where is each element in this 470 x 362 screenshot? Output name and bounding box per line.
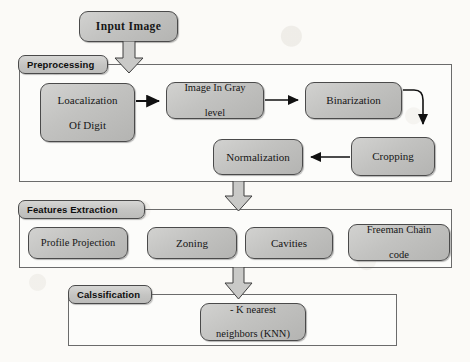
node-profile-projection-label: Profile Projection (38, 237, 118, 249)
node-localization-of-digit-label: Loacalization Of Digit (52, 94, 124, 132)
block-arrow-preprocessing-to-features (224, 181, 253, 212)
node-freeman-chain-code[interactable]: Freeman Chain code (348, 224, 450, 261)
section-tab-features-extraction-label: Features Extraction (27, 204, 118, 215)
node-gray-line1: Image In Gray (181, 82, 248, 94)
node-cavities[interactable]: Cavities (245, 227, 333, 259)
node-knn-label: - K nearest neighbors (KNN) (210, 304, 296, 340)
node-knn-line2: neighbors (KNN) (213, 328, 293, 340)
node-profile-projection[interactable]: Profile Projection (28, 227, 128, 259)
node-freeman-chain-code-label: Freeman Chain code (361, 224, 437, 260)
node-input-image[interactable]: Input Image (79, 11, 178, 42)
section-tab-preprocessing[interactable]: Preprocessing (18, 55, 108, 74)
node-input-image-label: Input Image (93, 20, 164, 33)
node-localization-line1: Loacalization (55, 94, 121, 107)
node-freeman-line2: code (364, 249, 434, 261)
node-binarization-label: Binarization (323, 94, 383, 107)
node-gray-line2: level (181, 107, 248, 119)
section-tab-classification[interactable]: Calssification (68, 285, 152, 304)
node-zoning[interactable]: Zoning (147, 227, 237, 259)
section-tab-classification-label: Calssification (77, 289, 140, 300)
node-knn-line1: - K nearest (213, 304, 293, 316)
node-image-in-gray-level-label: Image In Gray level (178, 82, 251, 118)
node-freeman-line1: Freeman Chain (364, 224, 434, 236)
node-cropping-label: Cropping (369, 150, 417, 163)
flowchart-canvas: Input Image Preprocessing Loacalization … (0, 0, 470, 362)
block-arrow-features-to-classification (224, 267, 253, 300)
node-image-in-gray-level[interactable]: Image In Gray level (166, 82, 264, 119)
node-normalization[interactable]: Normalization (213, 139, 303, 175)
node-localization-line2: Of Digit (55, 119, 121, 132)
section-tab-preprocessing-label: Preprocessing (27, 59, 94, 70)
node-knn[interactable]: - K nearest neighbors (KNN) (200, 303, 306, 341)
node-binarization[interactable]: Binarization (305, 82, 402, 119)
section-tab-features-extraction[interactable]: Features Extraction (18, 200, 145, 219)
block-arrow-input-to-preprocessing (114, 41, 144, 74)
node-cropping[interactable]: Cropping (351, 137, 435, 176)
node-localization-of-digit[interactable]: Loacalization Of Digit (40, 83, 135, 142)
node-zoning-label: Zoning (173, 237, 211, 250)
node-normalization-label: Normalization (223, 151, 293, 164)
node-cavities-label: Cavities (268, 237, 310, 250)
